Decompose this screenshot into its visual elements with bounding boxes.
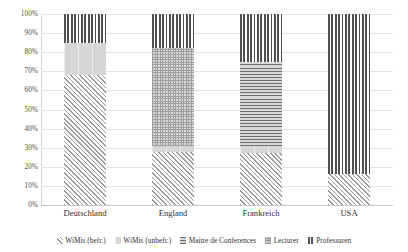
y-tick-label: 100% bbox=[21, 10, 38, 18]
x-category-label: England bbox=[129, 208, 217, 218]
chart-legend: WiMis (befr.)WiMis (unbefr.)Maitre de Co… bbox=[0, 233, 408, 248]
x-category-label: Frankreich bbox=[217, 208, 305, 218]
y-tick-label: 40% bbox=[25, 125, 38, 133]
legend-item[interactable]: Lecturer bbox=[265, 236, 299, 245]
y-tick-label: 90% bbox=[25, 29, 38, 37]
bar-group bbox=[64, 14, 106, 205]
y-axis-tick-labels: 0%10%20%30%40%50%60%70%80%90%100% bbox=[0, 14, 38, 205]
bar-segment[interactable] bbox=[152, 48, 194, 145]
bar-segment[interactable] bbox=[152, 14, 194, 48]
legend-label: Professuren bbox=[316, 236, 351, 245]
y-tick-label: 0% bbox=[28, 201, 38, 209]
legend-swatch-icon bbox=[57, 237, 63, 244]
legend-swatch-icon bbox=[308, 237, 314, 244]
y-tick-label: 80% bbox=[25, 48, 38, 56]
x-category-label: Deutschland bbox=[41, 208, 129, 218]
bar-segment[interactable] bbox=[328, 14, 370, 174]
y-tick-label: 70% bbox=[25, 67, 38, 75]
legend-item[interactable]: WiMis (befr.) bbox=[57, 236, 106, 245]
stacked-bar-chart: 0%10%20%30%40%50%60%70%80%90%100% Deutsc… bbox=[0, 0, 408, 252]
bar-group bbox=[240, 14, 282, 205]
legend-item[interactable]: Maitre de Conferences bbox=[180, 236, 256, 245]
bar-segment[interactable] bbox=[152, 146, 194, 152]
bar-segment[interactable] bbox=[240, 14, 282, 62]
bar-segment[interactable] bbox=[64, 14, 106, 43]
bar-stack bbox=[152, 14, 194, 205]
bar-stack bbox=[240, 14, 282, 205]
bar-segment[interactable] bbox=[240, 153, 282, 205]
bar-group bbox=[328, 14, 370, 205]
y-tick-label: 50% bbox=[25, 106, 38, 114]
bar-segment[interactable] bbox=[152, 152, 194, 205]
bar-segment[interactable] bbox=[64, 43, 106, 75]
bar-group bbox=[152, 14, 194, 205]
bar-segment[interactable] bbox=[240, 146, 282, 154]
bar-segment[interactable] bbox=[328, 174, 370, 205]
legend-label: Maitre de Conferences bbox=[189, 236, 257, 245]
legend-label: WiMis (befr.) bbox=[65, 236, 105, 245]
legend-swatch-icon bbox=[265, 237, 271, 244]
y-tick-label: 20% bbox=[25, 163, 38, 171]
bar-segment[interactable] bbox=[240, 62, 282, 146]
bar-segment[interactable] bbox=[64, 75, 106, 205]
legend-item[interactable]: Professuren bbox=[308, 236, 352, 245]
bar-stack bbox=[64, 14, 106, 205]
legend-swatch-icon bbox=[115, 237, 121, 244]
x-axis-category-labels: DeutschlandEnglandFrankreichUSA bbox=[41, 208, 393, 224]
y-tick-label: 10% bbox=[25, 182, 38, 190]
x-category-label: USA bbox=[305, 208, 393, 218]
gridline bbox=[41, 205, 393, 206]
legend-label: WiMis (unbefr.) bbox=[123, 236, 171, 245]
legend-label: Lecturer bbox=[274, 236, 299, 245]
plot-area bbox=[41, 14, 393, 205]
bars-layer bbox=[41, 14, 393, 205]
legend-swatch-icon bbox=[180, 237, 186, 244]
bar-stack bbox=[328, 14, 370, 205]
y-tick-label: 30% bbox=[25, 144, 38, 152]
legend-item[interactable]: WiMis (unbefr.) bbox=[115, 236, 171, 245]
y-tick-label: 60% bbox=[25, 86, 38, 94]
